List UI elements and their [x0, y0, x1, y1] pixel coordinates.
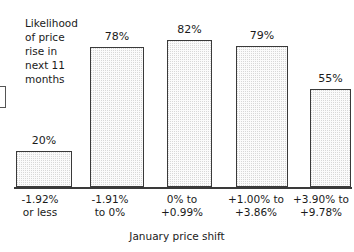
bar-value-label-2: 82% — [167, 23, 212, 36]
bar-value-label-3: 79% — [236, 29, 288, 42]
bar-value-label-1: 78% — [90, 30, 144, 43]
bar-group-1: 78% — [82, 8, 150, 187]
bar-2 — [167, 40, 212, 187]
x-tick-label-1: -1.91% to 0% — [76, 193, 144, 219]
bar-0 — [16, 151, 72, 187]
x-axis-line — [14, 187, 352, 189]
bar-3 — [236, 46, 288, 187]
bar-group-0: 20% — [14, 8, 82, 187]
bar-series: 20% 78% 82% 79% 55% — [14, 8, 352, 189]
plot-area: 20% 78% 82% 79% 55% — [14, 8, 352, 189]
x-tick-label-2: 0% to +0.99% — [148, 193, 216, 219]
bar-4 — [310, 89, 351, 187]
bar-group-4: 55% — [298, 8, 352, 187]
x-tick-label-0: -1.92% or less — [6, 193, 74, 219]
bar-value-label-4: 55% — [310, 72, 351, 85]
x-tick-label-3: +1.00% to +3.86% — [218, 193, 294, 219]
bar-group-3: 79% — [226, 8, 294, 187]
bar-1 — [90, 47, 144, 187]
bar-group-2: 82% — [154, 8, 219, 187]
x-tick-label-4: +3.90% to +9.78% — [288, 193, 354, 219]
x-axis-tick-labels: -1.92% or less -1.91% to 0% 0% to +0.99%… — [0, 193, 354, 223]
left-bracket-artifact — [0, 86, 6, 108]
bar-value-label-0: 20% — [16, 134, 72, 147]
bar-chart: Likelihood of price rise in next 11 mont… — [0, 0, 354, 252]
x-axis-title: January price shift — [0, 230, 354, 242]
